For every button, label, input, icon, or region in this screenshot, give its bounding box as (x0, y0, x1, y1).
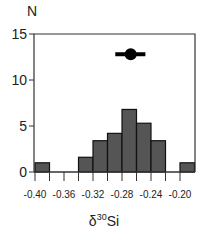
histogram-bar (122, 109, 137, 172)
y-tick-label: 0 (3, 165, 27, 179)
x-axis-label: δ30Si (0, 212, 208, 229)
x-tick-label: -0.40 (24, 190, 47, 200)
histogram-bar (35, 163, 50, 172)
histogram-chart (0, 0, 208, 237)
histogram-bar (180, 163, 195, 172)
y-tick-label: 10 (3, 73, 27, 87)
mean-marker-dot (125, 48, 137, 60)
x-tick-label: -0.20 (169, 190, 192, 200)
x-tick-label: -0.36 (53, 190, 76, 200)
x-tick-label: -0.32 (82, 190, 105, 200)
histogram-bar (93, 141, 108, 172)
y-axis-label: N (27, 4, 37, 18)
histogram-bar (151, 141, 166, 172)
histogram-bar (108, 133, 123, 172)
histogram-bar (137, 123, 152, 172)
x-tick-label: -0.24 (140, 190, 163, 200)
x-tick-label: -0.28 (111, 190, 134, 200)
y-tick-label: 15 (3, 27, 27, 41)
histogram-bar (79, 157, 94, 172)
y-tick-label: 5 (3, 119, 27, 133)
